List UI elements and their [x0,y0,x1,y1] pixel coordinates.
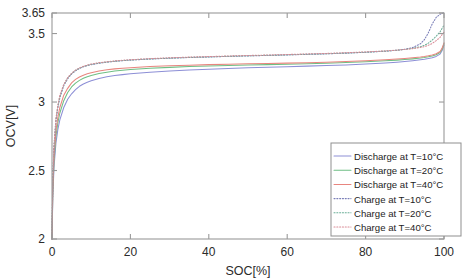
ocv-soc-chart: 020406080100 22.533.53.65 SOC[%] OCV[V] … [0,0,469,279]
figure-canvas: 020406080100 22.533.53.65 SOC[%] OCV[V] … [0,0,469,279]
y-tick-label: 2 [38,232,45,246]
y-axis-tick-labels: 22.533.53.65 [22,6,46,246]
x-tick-label: 40 [202,245,216,259]
legend-label-5: Charge at T=40°C [354,222,432,233]
x-tick-label: 20 [124,245,138,259]
legend-label-0: Discharge at T=10°C [354,151,443,162]
x-tick-label: 80 [359,245,373,259]
x-axis-title: SOC[%] [225,264,270,278]
y-tick-label: 3.65 [22,6,46,20]
y-axis-title: OCV[V] [4,105,18,147]
y-tick-label: 3.5 [28,27,45,41]
x-tick-label: 100 [434,245,454,259]
chart-legend[interactable]: Discharge at T=10°CDischarge at T=20°CDi… [331,143,461,236]
legend-label-1: Discharge at T=20°C [354,165,443,176]
legend-label-2: Discharge at T=40°C [354,179,443,190]
x-axis-tick-labels: 020406080100 [49,245,455,259]
y-tick-label: 3 [38,95,45,109]
x-tick-label: 60 [281,245,295,259]
x-tick-label: 0 [49,245,56,259]
legend-label-3: Charge at T=10°C [354,194,432,205]
y-tick-label: 2.5 [28,164,45,178]
legend-label-4: Charge at T=20°C [354,208,432,219]
